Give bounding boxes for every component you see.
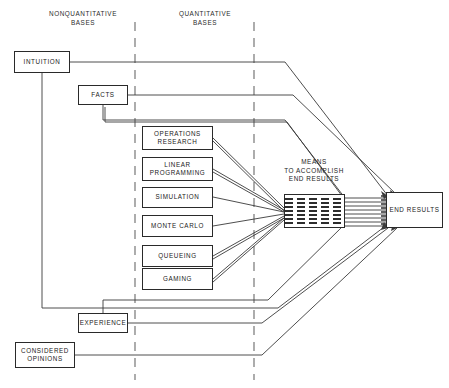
connector-considered-opinions-endresults [75,228,397,355]
node-linear-programming[interactable]: LINEAR PROGRAMMING [142,157,213,181]
node-end-results[interactable]: END RESULTS [386,192,443,228]
column-header-nonquantitative: NONQUANTITATIVE BASES [28,10,138,27]
node-queueing[interactable]: QUEUEING [142,245,213,267]
column-header-quantitative: QUANTITATIVE BASES [150,10,260,27]
node-operations-research[interactable]: OPERATIONS RESEARCH [142,126,213,150]
node-experience-label: EXPERIENCE [80,319,127,327]
node-facts-label: FACTS [91,91,114,99]
connector-intuition-down [42,73,388,308]
node-simulation-label: SIMULATION [155,193,199,201]
node-operations-research-label: OPERATIONS RESEARCH [154,130,201,146]
node-considered-opinions-label: CONSIDERED OPINIONS [21,347,69,363]
node-intuition[interactable]: INTUITION [14,51,70,73]
node-facts[interactable]: FACTS [78,85,128,105]
means-caption: MEANS TO ACCOMPLISH END RESULTS [273,158,355,184]
node-monte-carlo[interactable]: MONTE CARLO [142,215,213,237]
connector-experience-up [103,224,345,313]
node-linear-programming-label: LINEAR PROGRAMMING [150,161,206,177]
node-gaming-label: GAMING [163,275,192,283]
connector-gaming-means [213,218,284,279]
connector-gaming-means-2 [213,220,284,282]
diagram-canvas: NONQUANTITATIVE BASES QUANTITATIVE BASES… [0,0,449,388]
connector-queueing-means [213,216,284,256]
node-intuition-label: INTUITION [24,58,61,66]
node-queueing-label: QUEUEING [158,252,196,260]
node-gaming[interactable]: GAMING [142,268,213,290]
node-simulation[interactable]: SIMULATION [142,187,213,208]
node-end-results-label: END RESULTS [389,206,439,214]
node-experience[interactable]: EXPERIENCE [78,313,128,333]
connector-facts-bus-2 [105,107,345,200]
connector-simulation-means [213,197,284,212]
means-to-accomplish-end-results-block[interactable] [284,194,345,228]
node-monte-carlo-label: MONTE CARLO [151,222,204,230]
node-considered-opinions[interactable]: CONSIDERED OPINIONS [15,342,75,368]
